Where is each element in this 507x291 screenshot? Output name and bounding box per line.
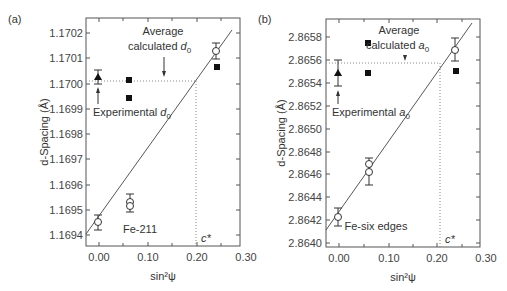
svg-text:2.8654: 2.8654 xyxy=(288,77,322,89)
x-axis-label-a: sin²ψ xyxy=(150,270,176,282)
y-tick-labels-a: 1.1702 1.1701 1.1700 1.1699 1.1698 1.169… xyxy=(49,27,83,241)
svg-text:2.8644: 2.8644 xyxy=(288,191,322,203)
circle-marker-b xyxy=(335,214,342,221)
svg-text:1.1696: 1.1696 xyxy=(49,179,83,191)
exp-label-b: Experimental a0 xyxy=(332,106,410,121)
square-marker-a xyxy=(126,77,132,83)
svg-text:1.1697: 1.1697 xyxy=(49,153,83,165)
panel-b-label: (b) xyxy=(258,13,271,25)
svg-text:1.1699: 1.1699 xyxy=(49,103,83,115)
svg-text:0.20: 0.20 xyxy=(186,251,207,263)
cstar-label-b: c* xyxy=(445,233,456,245)
svg-text:0.30: 0.30 xyxy=(235,251,256,263)
exp-label-a: Experimental d0 xyxy=(93,106,171,121)
svg-text:1.1694: 1.1694 xyxy=(49,229,83,241)
triangle-marker-b xyxy=(334,69,342,76)
material-label-a: Fe-211 xyxy=(123,223,157,235)
up-arrow-icon xyxy=(336,90,340,96)
material-label-b: Fe-six edges xyxy=(345,220,408,232)
svg-text:2.8646: 2.8646 xyxy=(288,168,322,180)
x-axis-label-b: sin²ψ xyxy=(390,271,416,283)
svg-text:2.8648: 2.8648 xyxy=(288,146,322,158)
avg-label-line1-b: Average xyxy=(379,24,420,36)
circle-marker-a xyxy=(213,48,220,55)
panel-a-label: (a) xyxy=(8,13,21,25)
avg-label-line2-a: calculated d0 xyxy=(128,40,192,55)
fit-line-b xyxy=(326,23,472,230)
svg-text:1.1698: 1.1698 xyxy=(49,128,83,140)
circle-marker-b xyxy=(452,47,459,54)
svg-text:0.20: 0.20 xyxy=(426,252,447,264)
circle-marker-b xyxy=(366,161,373,168)
svg-text:0.00: 0.00 xyxy=(328,252,349,264)
circle-marker-b xyxy=(366,169,373,176)
up-arrow-icon xyxy=(96,87,100,93)
svg-text:0.10: 0.10 xyxy=(378,252,399,264)
fit-line-a xyxy=(86,30,232,234)
svg-text:2.8642: 2.8642 xyxy=(288,214,322,226)
svg-text:0.30: 0.30 xyxy=(475,252,496,264)
avg-label-line2-b: calculated a0 xyxy=(366,39,430,54)
svg-text:2.8656: 2.8656 xyxy=(288,54,322,66)
svg-text:0.10: 0.10 xyxy=(137,251,158,263)
x-tick-labels-b: 0.00 0.10 0.20 0.30 xyxy=(328,252,496,264)
svg-text:0.00: 0.00 xyxy=(88,251,109,263)
down-arrow-icon xyxy=(162,71,166,77)
error-bars-a xyxy=(94,43,220,230)
square-marker-b xyxy=(365,70,371,76)
square-marker-b xyxy=(453,68,459,74)
svg-text:1.1695: 1.1695 xyxy=(49,204,83,216)
y-tick-labels-b: 2.8658 2.8656 2.8654 2.8652 2.8650 2.864… xyxy=(288,31,322,249)
circle-marker-a xyxy=(127,203,134,210)
panel-b: (b) 2.8658 2.8656 2.8654 2.8652 2.8650 xyxy=(258,13,497,283)
svg-text:1.1701: 1.1701 xyxy=(49,52,83,64)
square-marker-a xyxy=(214,64,220,70)
circle-marker-a xyxy=(95,219,102,226)
svg-text:1.1700: 1.1700 xyxy=(49,78,83,90)
triangle-marker-a xyxy=(94,73,102,80)
y-axis-label-a: d-Spacing (Å) xyxy=(38,98,50,165)
svg-text:2.8650: 2.8650 xyxy=(288,123,322,135)
panel-a: (a) 1.1702 1.1701 1.1700 xyxy=(8,13,257,282)
square-marker-a xyxy=(126,95,132,101)
svg-text:2.8640: 2.8640 xyxy=(288,237,322,249)
svg-text:1.1702: 1.1702 xyxy=(49,27,83,39)
svg-text:2.8658: 2.8658 xyxy=(288,31,322,43)
down-arrow-icon xyxy=(403,55,407,61)
cstar-label-a: c* xyxy=(201,232,212,244)
y-axis-label-b: d-Spacing (Å) xyxy=(275,99,287,166)
svg-text:2.8652: 2.8652 xyxy=(288,100,322,112)
figure: (a) 1.1702 1.1701 1.1700 xyxy=(0,0,507,291)
x-tick-labels-a: 0.00 0.10 0.20 0.30 xyxy=(88,251,256,263)
avg-label-line1-a: Average xyxy=(143,25,184,37)
